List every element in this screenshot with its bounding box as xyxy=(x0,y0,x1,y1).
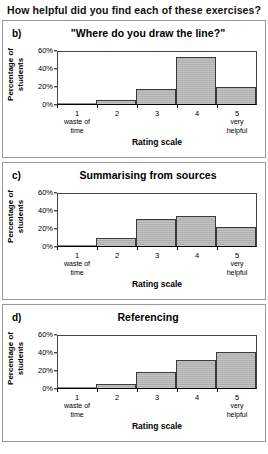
chart-panel-b: b) "Where do you draw the line?" Percent… xyxy=(2,20,266,158)
panel-title-c: Summarising from sources xyxy=(37,169,259,181)
x-category-4: 4 xyxy=(177,393,217,419)
x-category-1: 1waste oftime xyxy=(57,251,97,277)
bar-d-4 xyxy=(176,360,216,388)
y-tick-40: 40% xyxy=(38,65,53,73)
bar-series-c xyxy=(58,194,256,246)
bar-b-4 xyxy=(176,57,216,104)
x-category-3: 3 xyxy=(137,251,177,277)
bar-c-1 xyxy=(58,245,96,246)
panel-title-b: "Where do you draw the line?" xyxy=(37,27,259,39)
y-axis-ticks: 60% 40% 20% 0% xyxy=(31,51,55,105)
x-axis-title-d: Rating scale xyxy=(57,421,257,431)
bar-c-3 xyxy=(136,219,176,246)
y-axis-label: Percentage of students xyxy=(6,331,25,387)
bar-b-3 xyxy=(136,89,176,104)
x-category-5: 5veryhelpful xyxy=(217,393,257,419)
y-tick-40: 40% xyxy=(38,349,53,357)
x-category-2: 2 xyxy=(97,109,137,135)
y-tick-20: 20% xyxy=(38,225,53,233)
plot-area-b xyxy=(57,51,257,105)
x-tick xyxy=(97,247,137,249)
x-category-3: 3 xyxy=(137,393,177,419)
bar-series-d xyxy=(58,336,256,388)
x-tick xyxy=(97,105,137,107)
x-category-1: 1waste oftime xyxy=(57,393,97,419)
x-tick xyxy=(97,389,137,391)
x-axis-labels-c: 1waste oftime 2 3 4 5veryhelpful xyxy=(57,251,257,277)
y-tick-40: 40% xyxy=(38,207,53,215)
bar-series-b xyxy=(58,52,256,104)
panel-letter-d: d) xyxy=(12,312,21,323)
y-axis-ticks: 60% 40% 20% 0% xyxy=(31,193,55,247)
y-axis-label: Percentage of students xyxy=(6,47,25,103)
x-category-1: 1waste oftime xyxy=(57,109,97,135)
page-title: How helpful did you find each of these e… xyxy=(0,0,268,20)
x-axis-labels-d: 1waste oftime 2 3 4 5veryhelpful xyxy=(57,393,257,419)
y-tick-0: 0% xyxy=(42,243,53,251)
plot-area-c xyxy=(57,193,257,247)
x-tick xyxy=(137,247,177,249)
bar-c-4 xyxy=(176,216,216,246)
x-category-3: 3 xyxy=(137,109,177,135)
bar-b-1 xyxy=(58,103,96,104)
x-tick xyxy=(217,247,257,249)
chart-panel-c: c) Summarising from sources Percentage o… xyxy=(2,162,266,300)
x-category-4: 4 xyxy=(177,109,217,135)
panel-letter-c: c) xyxy=(12,170,21,181)
x-category-2: 2 xyxy=(97,393,137,419)
x-category-5: 5veryhelpful xyxy=(217,251,257,277)
y-tick-20: 20% xyxy=(38,367,53,375)
bar-d-3 xyxy=(136,372,176,388)
x-tick xyxy=(217,105,257,107)
x-category-2: 2 xyxy=(97,251,137,277)
y-tick-60: 60% xyxy=(38,47,53,55)
x-tick xyxy=(137,389,177,391)
bar-d-5 xyxy=(216,352,256,388)
x-category-4: 4 xyxy=(177,251,217,277)
panel-letter-b: b) xyxy=(12,28,21,39)
bar-c-5 xyxy=(216,227,256,246)
x-axis-labels-b: 1waste oftime 2 3 4 5veryhelpful xyxy=(57,109,257,135)
x-tick xyxy=(57,247,97,249)
x-axis-ticks-c xyxy=(57,247,257,249)
bar-chart-d: Percentage of students 60% 40% 20% 0% xyxy=(3,327,265,441)
figure-page: How helpful did you find each of these e… xyxy=(0,0,268,454)
y-tick-60: 60% xyxy=(38,189,53,197)
x-axis-ticks-d xyxy=(57,389,257,391)
panel-title-d: Referencing xyxy=(37,311,259,323)
x-tick xyxy=(57,389,97,391)
bar-d-1 xyxy=(58,387,96,388)
x-axis-title-c: Rating scale xyxy=(57,279,257,289)
x-tick xyxy=(177,105,217,107)
x-category-5: 5veryhelpful xyxy=(217,109,257,135)
bar-b-5 xyxy=(216,87,256,104)
x-axis-title-b: Rating scale xyxy=(57,137,257,147)
x-tick xyxy=(217,389,257,391)
bar-d-2 xyxy=(96,384,136,388)
y-axis-ticks: 60% 40% 20% 0% xyxy=(31,335,55,389)
x-tick xyxy=(177,389,217,391)
bar-chart-c: Percentage of students 60% 40% 20% 0% xyxy=(3,185,265,299)
bar-b-2 xyxy=(96,100,136,104)
bar-chart-b: Percentage of students 60% 40% 20% 0% xyxy=(3,43,265,157)
plot-area-d xyxy=(57,335,257,389)
x-tick xyxy=(57,105,97,107)
y-tick-60: 60% xyxy=(38,331,53,339)
chart-panel-d: d) Referencing Percentage of students 60… xyxy=(2,304,266,442)
bar-c-2 xyxy=(96,238,136,246)
x-tick xyxy=(137,105,177,107)
y-tick-20: 20% xyxy=(38,83,53,91)
x-axis-ticks-b xyxy=(57,105,257,107)
y-tick-0: 0% xyxy=(42,385,53,393)
y-tick-0: 0% xyxy=(42,101,53,109)
y-axis-label: Percentage of students xyxy=(6,189,25,245)
x-tick xyxy=(177,247,217,249)
